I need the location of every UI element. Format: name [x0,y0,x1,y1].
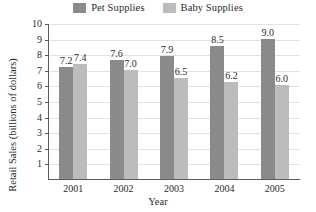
legend-swatch-icon [163,3,176,13]
bar [110,60,124,179]
bar [261,39,275,179]
gridline [49,24,300,25]
y-axis-tick-label: 3 [18,127,42,138]
y-axis-line [48,24,49,180]
x-axis-line [48,179,300,180]
bar-value-label: 7.9 [155,44,179,55]
y-axis-tick-label: 8 [18,49,42,60]
y-axis-tick-label: 9 [18,34,42,45]
y-axis-tick-label: 2 [18,143,42,154]
y-axis-title: Retail Sales (billions of dollars) [7,50,18,200]
chart-legend: Pet Supplies Baby Supplies [0,3,316,13]
y-axis-tick-label: 5 [18,96,42,107]
bar [275,85,289,179]
bar-value-label: 7.0 [119,58,143,69]
y-axis-tick-label: 1 [18,158,42,169]
x-axis-title: Year [0,196,316,207]
bar-value-label: 7.4 [68,52,92,63]
bar [59,67,73,179]
x-axis-tick-label: 2005 [250,183,300,194]
bar [174,78,188,179]
bar-chart: Pet Supplies Baby Supplies Retail Sales … [0,0,316,212]
bar-value-label: 8.5 [205,34,229,45]
y-axis-tick-label: 4 [18,112,42,123]
bar [210,46,224,179]
legend-entry-pet-supplies: Pet Supplies [73,3,144,13]
legend-label: Pet Supplies [91,3,144,13]
bar-value-label: 9.0 [256,27,280,38]
y-axis-tick-label: 6 [18,80,42,91]
x-axis-tick-label: 2003 [149,183,199,194]
bar [224,82,238,179]
bar [124,70,138,179]
y-axis-tick-label: 10 [18,18,42,29]
y-axis-tick-label: 7 [18,65,42,76]
legend-entry-baby-supplies: Baby Supplies [163,3,243,13]
bar [73,64,87,179]
bar-value-label: 6.2 [219,70,243,81]
x-axis-tick-label: 2002 [98,183,148,194]
legend-swatch-icon [73,3,86,13]
x-axis-tick-label: 2001 [48,183,98,194]
bar-value-label: 6.0 [270,73,294,84]
x-axis-tick-label: 2004 [199,183,249,194]
bar-value-label: 6.5 [169,66,193,77]
legend-label: Baby Supplies [181,3,243,13]
